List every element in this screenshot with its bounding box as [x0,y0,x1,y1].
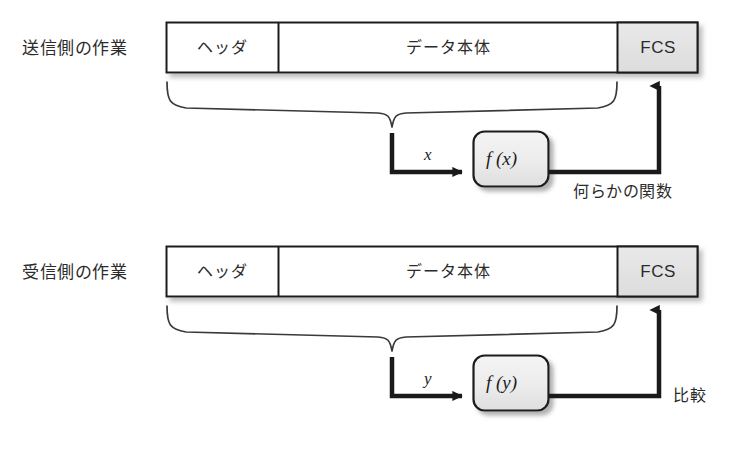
receiver-fcs-cell-label: FCS [618,263,698,280]
receiver-variable-label: y [424,370,432,387]
receiver-side-label: 受信側の作業 [22,264,127,281]
receiver-function-label: f (y) [486,373,517,392]
sender-side-label: 送信側の作業 [22,40,127,57]
sender-body-cell-label: データ本体 [279,40,618,56]
sender-fcs-cell-label: FCS [618,39,698,56]
diagram-canvas: 送信側の作業 ヘッダ データ本体 FCS x f (x) 何らかの関数 受信側の… [0,0,734,449]
sender-fcs-feedback [549,86,659,172]
receiver-brace [167,306,617,351]
sender-function-label: f (x) [486,149,517,168]
receiver-body-cell-label: データ本体 [279,264,618,280]
sender-header-cell-label: ヘッダ [166,40,278,56]
sender-brace [167,82,617,127]
sender-variable-label: x [424,146,432,163]
receiver-fcs-feedback [549,310,659,396]
sender-note-label: 何らかの関数 [573,184,672,200]
diagram-graphics [0,0,734,449]
receiver-note-label: 比較 [673,388,706,404]
receiver-header-cell-label: ヘッダ [166,264,278,280]
